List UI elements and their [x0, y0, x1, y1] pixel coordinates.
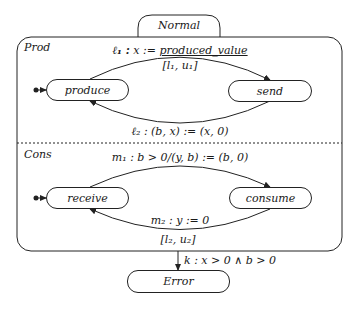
region-prod-label: Prod: [24, 41, 50, 54]
transition-m2-label: m₂ : y := 0: [151, 214, 210, 227]
state-consume[interactable]: consume: [229, 187, 312, 209]
initial-dot-cons: [34, 196, 39, 201]
state-send-label: send: [257, 85, 283, 98]
transition-l1-label: ℓ₁ : x := produced_value: [112, 44, 247, 57]
state-receive-label: receive: [67, 192, 108, 205]
initial-dot-prod: [34, 88, 39, 93]
state-error-label: Error: [163, 275, 193, 288]
transition-m1-label: m₁ : b > 0/(y, b) := (b, 0): [112, 151, 248, 164]
transition-k-label: k : x > 0 ∧ b > 0: [184, 254, 276, 267]
state-receive[interactable]: receive: [46, 187, 129, 209]
transition-send-to-produce: [90, 101, 270, 123]
region-cons-label: Cons: [24, 148, 52, 161]
transition-l2-label: ℓ₂ : (b, x) := (x, 0): [131, 125, 228, 138]
transition-receive-to-consume: [90, 166, 270, 187]
state-error[interactable]: Error: [127, 270, 230, 293]
state-send[interactable]: send: [228, 80, 312, 102]
superstate-normal-label: Normal: [158, 19, 200, 32]
state-consume-label: consume: [246, 192, 296, 205]
transition-l1-interval: [l₁, u₁]: [163, 59, 198, 72]
transition-m2-interval: [l₂, u₂]: [161, 233, 196, 246]
state-produce[interactable]: produce: [46, 79, 129, 101]
state-produce-label: produce: [65, 84, 111, 97]
